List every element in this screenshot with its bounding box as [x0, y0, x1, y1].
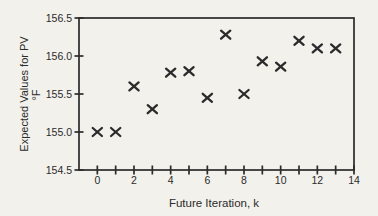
- y-tick-label: 154.5: [46, 164, 72, 176]
- x-tick-label: 2: [131, 174, 137, 186]
- x-tick-label: 8: [241, 174, 247, 186]
- y-axis-unit-label: °F: [30, 89, 42, 100]
- x-tick-label: 0: [94, 174, 100, 186]
- chart-generated-layer: 02468101214154.5155.0155.5156.0156.5: [46, 12, 360, 187]
- plot-frame: [79, 18, 354, 170]
- y-axis-title: Expected Values for PV: [18, 36, 30, 152]
- x-tick-label: 6: [204, 174, 210, 186]
- y-tick-label: 155.5: [46, 88, 72, 100]
- scatter-plot: 02468101214154.5155.0155.5156.0156.5 Exp…: [0, 0, 378, 216]
- x-tick-label: 10: [275, 174, 287, 186]
- chart-figure: 02468101214154.5155.0155.5156.0156.5 Exp…: [0, 0, 378, 216]
- x-tick-label: 14: [348, 174, 360, 186]
- y-tick-label: 155.0: [46, 126, 72, 138]
- y-tick-label: 156.5: [46, 12, 72, 24]
- x-axis-title: Future Iteration, k: [169, 197, 259, 209]
- x-tick-label: 12: [311, 174, 323, 186]
- x-tick-label: 4: [168, 174, 174, 186]
- y-tick-label: 156.0: [46, 50, 72, 62]
